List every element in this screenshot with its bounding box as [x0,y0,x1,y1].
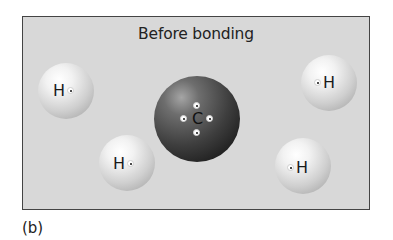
hydrogen-symbol: H [296,160,308,176]
panel-label: (b) [22,219,43,237]
hydrogen-atom-top-left: H [38,63,94,119]
electron-dot [67,87,74,94]
carbon-symbol: C [192,111,203,127]
hydrogen-atom-top-right: H [301,55,357,111]
diagram-frame: Before bonding H H C H H [22,16,370,210]
electron-dot [314,79,321,86]
electron-dot-right [206,115,213,122]
electron-dot-top [193,102,200,109]
electron-dot [287,164,294,171]
carbon-atom: C [154,76,240,162]
electron-dot [127,160,134,167]
hydrogen-atom-bottom-right: H [275,138,331,194]
electron-dot-bottom [193,129,200,136]
diagram-title: Before bonding [23,25,369,43]
hydrogen-atom-bottom-left: H [99,135,155,191]
hydrogen-symbol: H [113,156,125,172]
hydrogen-symbol: H [323,75,335,91]
electron-dot-left [180,115,187,122]
hydrogen-symbol: H [53,83,65,99]
